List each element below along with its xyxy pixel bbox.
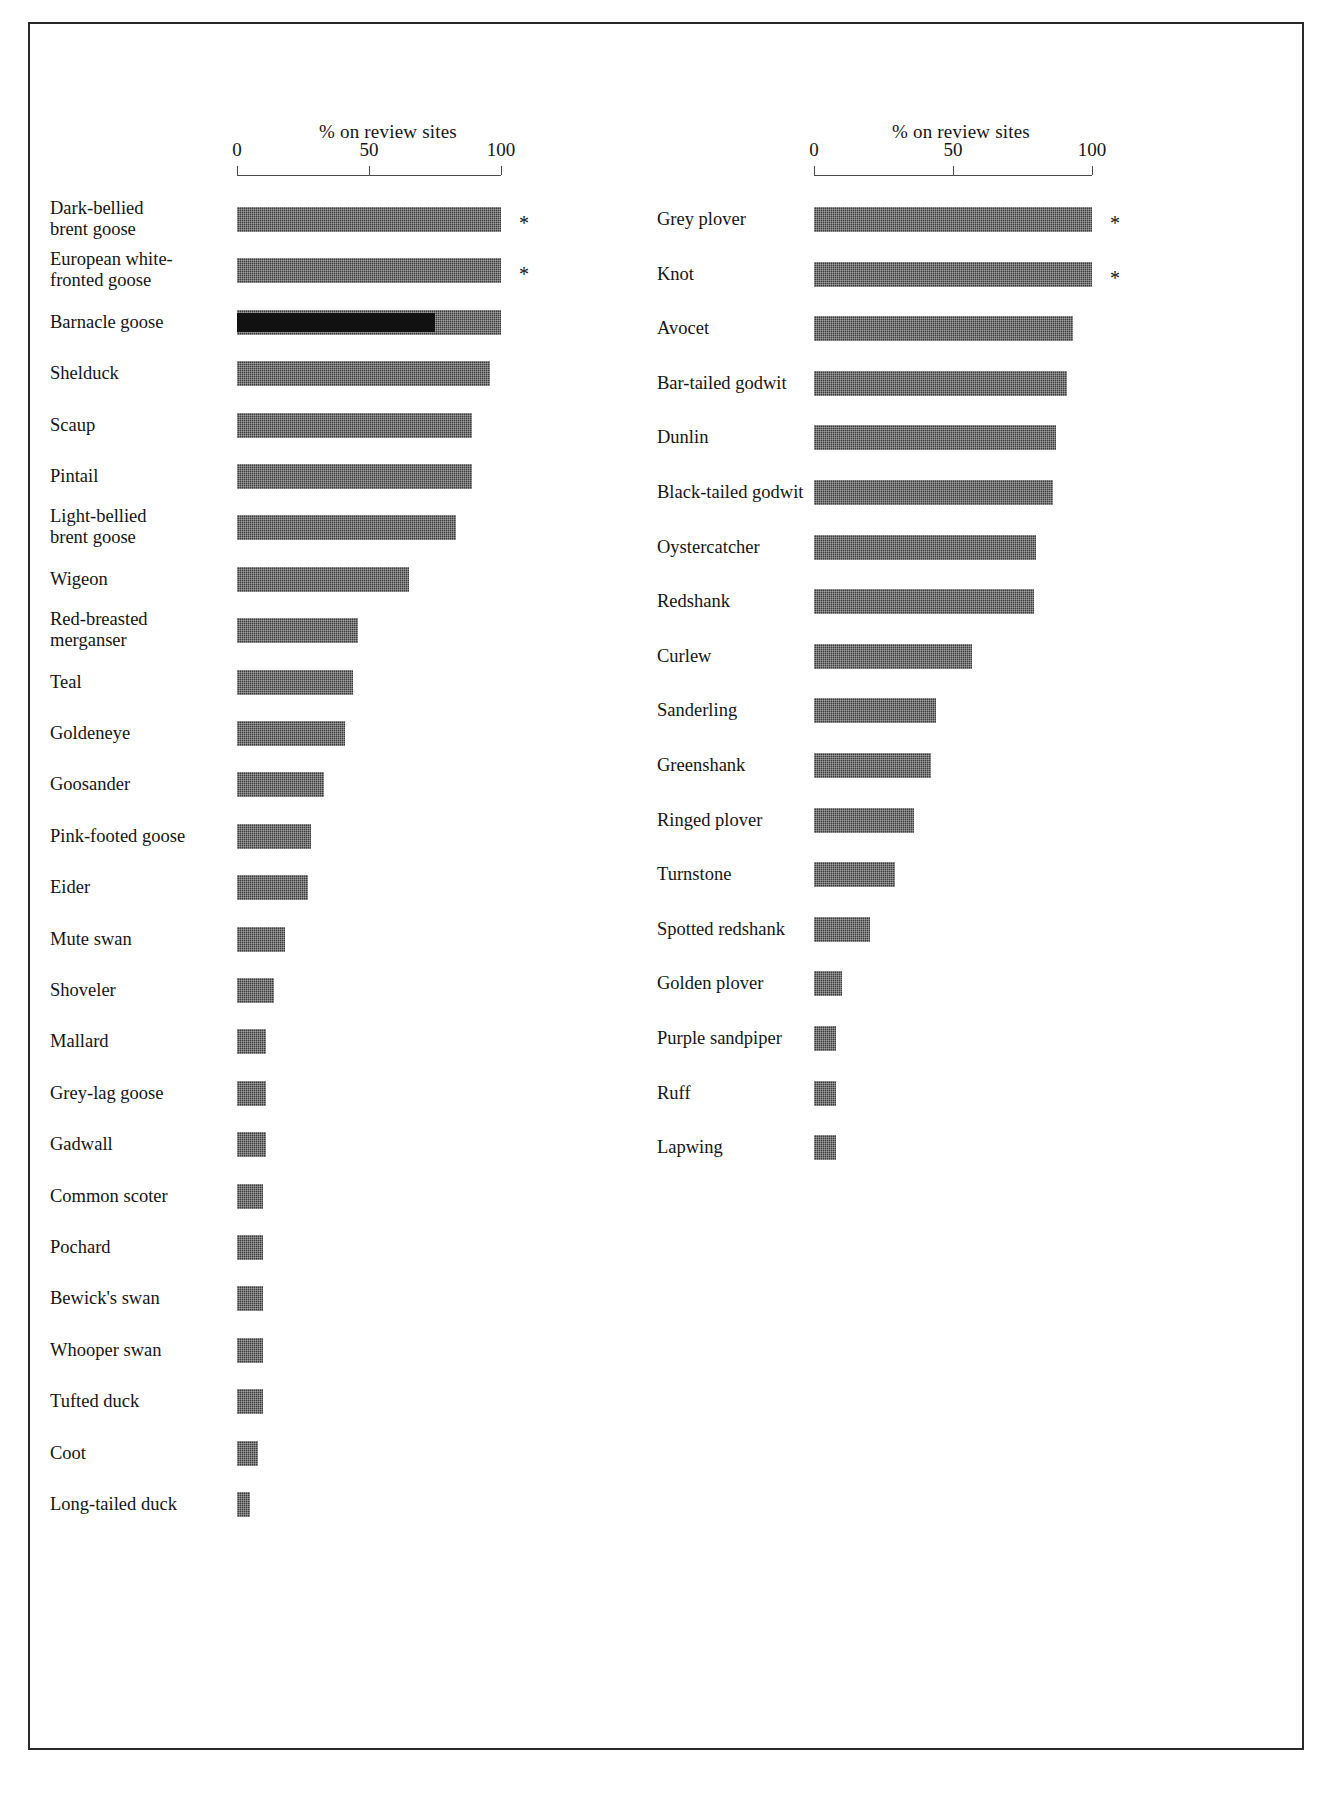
bar bbox=[237, 670, 353, 695]
category-label: Mallard bbox=[50, 1031, 229, 1052]
category-label: Goosander bbox=[50, 774, 229, 795]
x-axis-tick bbox=[1092, 166, 1093, 175]
x-axis-line-right bbox=[814, 175, 1092, 176]
bar bbox=[237, 1441, 258, 1466]
category-label: Eider bbox=[50, 877, 229, 898]
category-label: Pochard bbox=[50, 1237, 229, 1258]
bar bbox=[814, 917, 870, 942]
x-axis-tick bbox=[953, 166, 954, 175]
bar bbox=[814, 1026, 836, 1051]
category-label: Grey-lag goose bbox=[50, 1083, 229, 1104]
footnote-star: * bbox=[519, 213, 529, 233]
x-axis-tick-label: 100 bbox=[487, 139, 516, 161]
category-label: European white- fronted goose bbox=[50, 249, 229, 291]
category-label: Sanderling bbox=[657, 700, 806, 721]
bar bbox=[237, 361, 490, 386]
category-label: Barnacle goose bbox=[50, 312, 229, 333]
bar bbox=[814, 644, 972, 669]
x-axis-tick-label: 0 bbox=[809, 139, 819, 161]
bar bbox=[237, 1338, 263, 1363]
category-label: Dunlin bbox=[657, 427, 806, 448]
figure-frame: % on review sites 050100 Dark-bellied br… bbox=[28, 22, 1304, 1750]
category-label: Grey plover bbox=[657, 209, 806, 230]
category-label: Turnstone bbox=[657, 864, 806, 885]
bar bbox=[237, 1081, 266, 1106]
category-label: Shelduck bbox=[50, 363, 229, 384]
bar bbox=[814, 535, 1036, 560]
category-label: Tufted duck bbox=[50, 1391, 229, 1412]
x-axis-tick bbox=[237, 166, 238, 175]
bar bbox=[814, 862, 895, 887]
footnote-star: * bbox=[1110, 268, 1120, 288]
bar bbox=[814, 207, 1092, 232]
bar bbox=[814, 808, 914, 833]
category-label: Whooper swan bbox=[50, 1340, 229, 1361]
x-axis-tick-label: 50 bbox=[944, 139, 963, 161]
bar bbox=[237, 618, 358, 643]
bar bbox=[237, 1235, 263, 1260]
category-label: Golden plover bbox=[657, 973, 806, 994]
bar bbox=[237, 567, 409, 592]
category-label: Dark-bellied brent goose bbox=[50, 198, 229, 240]
x-axis-tick-label: 100 bbox=[1078, 139, 1107, 161]
bar bbox=[237, 1029, 266, 1054]
bar bbox=[814, 971, 842, 996]
category-label: Coot bbox=[50, 1443, 229, 1464]
bar bbox=[237, 413, 472, 438]
category-label: Black-tailed godwit bbox=[657, 482, 806, 503]
category-label: Teal bbox=[50, 672, 229, 693]
category-label: Purple sandpiper bbox=[657, 1028, 806, 1049]
category-label: Red-breasted merganser bbox=[50, 609, 229, 651]
x-axis-tick-label: 0 bbox=[232, 139, 242, 161]
bar-overlay bbox=[237, 313, 435, 332]
bar bbox=[237, 772, 324, 797]
bar bbox=[237, 1184, 263, 1209]
bar bbox=[814, 1081, 836, 1106]
category-label: Scaup bbox=[50, 415, 229, 436]
category-label: Pink-footed goose bbox=[50, 826, 229, 847]
bar bbox=[237, 515, 456, 540]
bar bbox=[237, 464, 472, 489]
footnote-star: * bbox=[519, 264, 529, 284]
bar bbox=[814, 371, 1067, 396]
footnote-star: * bbox=[1110, 213, 1120, 233]
bar bbox=[237, 1492, 250, 1517]
chart-panel-waders: % on review sites 050100 Grey plover*Kno… bbox=[610, 24, 1290, 1748]
category-label: Oystercatcher bbox=[657, 537, 806, 558]
bar bbox=[237, 1286, 263, 1311]
category-label: Light-bellied brent goose bbox=[50, 506, 229, 548]
x-axis-tick bbox=[369, 166, 370, 175]
category-label: Long-tailed duck bbox=[50, 1494, 229, 1515]
chart-panel-wildfowl: % on review sites 050100 Dark-bellied br… bbox=[30, 24, 630, 1748]
category-label: Spotted redshank bbox=[657, 919, 806, 940]
axis-title-left: % on review sites bbox=[319, 121, 457, 143]
bar bbox=[237, 875, 308, 900]
category-label: Knot bbox=[657, 264, 806, 285]
bar bbox=[237, 1132, 266, 1157]
bar bbox=[814, 480, 1053, 505]
category-label: Shoveler bbox=[50, 980, 229, 1001]
category-label: Goldeneye bbox=[50, 723, 229, 744]
bar bbox=[237, 721, 345, 746]
x-axis-line-left bbox=[237, 175, 501, 176]
category-label: Redshank bbox=[657, 591, 806, 612]
category-label: Bewick's swan bbox=[50, 1288, 229, 1309]
category-label: Curlew bbox=[657, 646, 806, 667]
bar bbox=[237, 207, 501, 232]
category-label: Ruff bbox=[657, 1083, 806, 1104]
category-label: Wigeon bbox=[50, 569, 229, 590]
bar bbox=[237, 927, 285, 952]
category-label: Common scoter bbox=[50, 1186, 229, 1207]
bar bbox=[814, 589, 1034, 614]
category-label: Gadwall bbox=[50, 1134, 229, 1155]
bar bbox=[814, 316, 1073, 341]
bar bbox=[237, 824, 311, 849]
bar bbox=[814, 1135, 836, 1160]
bar bbox=[814, 262, 1092, 287]
bar bbox=[814, 698, 936, 723]
bar bbox=[237, 258, 501, 283]
category-label: Bar-tailed godwit bbox=[657, 373, 806, 394]
category-label: Mute swan bbox=[50, 929, 229, 950]
bar bbox=[237, 1389, 263, 1414]
category-label: Ringed plover bbox=[657, 810, 806, 831]
